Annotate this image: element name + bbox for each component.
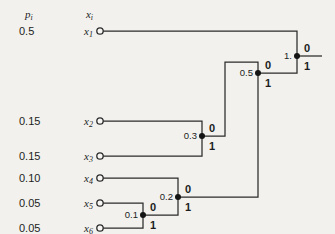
leaf-node-circle [97, 153, 103, 159]
node-probability-label: 0.5 [240, 67, 253, 78]
leaf-probability-label: 0.10 [19, 172, 40, 184]
node-probability-label: 0.3 [184, 130, 197, 141]
node-probability-label: 0.2 [160, 191, 173, 202]
leaf-probability-label: 0.15 [19, 115, 40, 127]
branch-label-0: 0 [209, 122, 215, 134]
leaf-probability-label: 0.05 [19, 222, 40, 234]
branch-label-1: 1 [265, 77, 271, 89]
tree-canvas: pixi0.5x10.15x20.15x30.10x40.05x50.05x60… [0, 0, 335, 234]
branch-label-1: 1 [185, 201, 191, 213]
leaf-node-circle [97, 28, 103, 34]
branch-label-1: 1 [304, 60, 310, 72]
leaf-node-circle [97, 118, 103, 124]
leaf-node-circle [97, 225, 103, 231]
merge-node-dot [199, 133, 205, 139]
leaf-probability-label: 0.05 [19, 197, 40, 209]
leaf-node-circle [97, 200, 103, 206]
merge-node-dot [255, 70, 261, 76]
merge-node-dot [175, 194, 181, 200]
huffman-code-tree-figure: pixi0.5x10.15x20.15x30.10x40.05x50.05x60… [0, 0, 335, 234]
branch-label-0: 0 [265, 59, 271, 71]
branch-label-1: 1 [209, 140, 215, 152]
node-probability-label: 1. [284, 50, 292, 61]
merge-node-dot [140, 212, 146, 218]
branch-label-0: 0 [185, 183, 191, 195]
merge-node-dot [294, 53, 300, 59]
node-probability-label: 0.1 [125, 209, 138, 220]
leaf-probability-label: 0.5 [19, 25, 34, 37]
leaf-probability-label: 0.15 [19, 150, 40, 162]
leaf-node-circle [97, 175, 103, 181]
branch-label-0: 0 [304, 42, 310, 54]
branch-label-0: 0 [150, 201, 156, 213]
branch-label-1: 1 [150, 219, 156, 231]
